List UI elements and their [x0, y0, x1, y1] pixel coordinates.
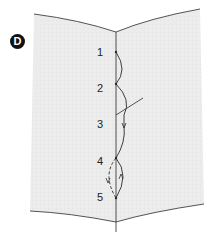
stitch-label-1: 1 [95, 46, 105, 58]
stitch-label-3: 3 [95, 118, 105, 130]
stitch-point [115, 51, 117, 53]
stitch-point [115, 157, 117, 159]
stitch-point [115, 83, 117, 85]
stitch-label-2: 2 [95, 82, 105, 94]
stitch-point [115, 197, 117, 199]
stitch-label-5: 5 [95, 191, 105, 203]
stitch-diagram [0, 0, 217, 232]
step-badge: D [10, 34, 25, 49]
fabric-right-panel [116, 9, 204, 222]
stitch-label-4: 4 [95, 155, 105, 167]
